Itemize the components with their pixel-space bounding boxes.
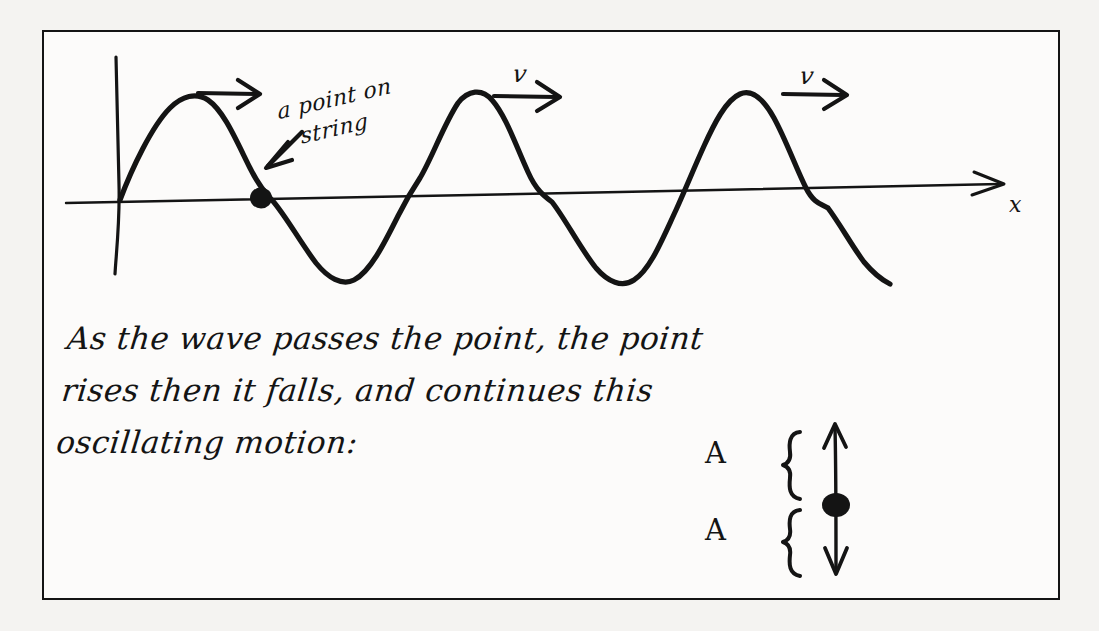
note-page: a point on string v v x As the wave pass… [0, 0, 1099, 631]
x-axis-label: x [1009, 192, 1022, 217]
amplitude-label-lower: A [705, 513, 726, 547]
body-paragraph: As the wave passes the point, the point … [54, 312, 706, 468]
body-line-1: As the wave passes the point, the point [65, 312, 706, 364]
amplitude-label-upper: A [705, 436, 726, 470]
body-line-3: oscillating motion: [54, 416, 695, 468]
body-line-2: rises then it falls, and continues this [59, 364, 700, 416]
